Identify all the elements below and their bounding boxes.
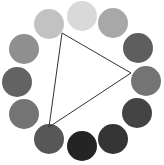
color-swatch-right-upper [123, 33, 153, 63]
color-swatch-top [67, 1, 97, 31]
color-swatch-right [131, 66, 161, 96]
color-swatch-left-lower [9, 99, 39, 129]
color-swatch-right-lower [122, 98, 152, 128]
color-swatch-bottom-left [34, 124, 64, 154]
color-swatch-top-left [34, 9, 64, 39]
color-swatch-left-upper [9, 34, 39, 64]
color-wheel-diagram [0, 0, 164, 165]
color-swatch-bottom-right [98, 124, 128, 154]
color-swatch-top-right [98, 8, 128, 38]
color-swatch-left [2, 67, 32, 97]
color-swatches [2, 1, 161, 161]
color-swatch-bottom [67, 131, 97, 161]
triad-triangle [49, 33, 131, 127]
